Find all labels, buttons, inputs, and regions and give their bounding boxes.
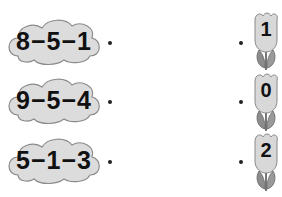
- answer-tulip-3: 2: [251, 133, 281, 195]
- answer-text: 2: [251, 139, 281, 162]
- match-dot-right-2[interactable]: [239, 100, 243, 104]
- answer-text: 1: [251, 18, 281, 41]
- answer-text: 0: [251, 79, 281, 102]
- match-dot-right-1[interactable]: [239, 41, 243, 45]
- expression-text: 8−5−1: [4, 16, 104, 66]
- expression-text: 5−1−3: [4, 135, 104, 185]
- expression-cloud-3: 5−1−3: [4, 135, 104, 185]
- match-dot-left-2[interactable]: [108, 100, 112, 104]
- answer-tulip-1: 1: [251, 12, 281, 74]
- match-dot-left-1[interactable]: [108, 41, 112, 45]
- expression-text: 9−5−4: [4, 75, 104, 125]
- match-dot-left-3[interactable]: [108, 160, 112, 164]
- match-dot-right-3[interactable]: [239, 160, 243, 164]
- answer-tulip-2: 0: [251, 73, 281, 135]
- expression-cloud-1: 8−5−1: [4, 16, 104, 66]
- expression-cloud-2: 9−5−4: [4, 75, 104, 125]
